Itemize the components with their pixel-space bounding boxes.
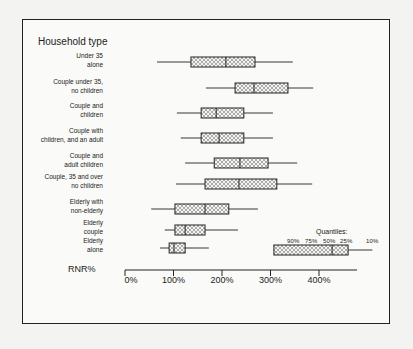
- x-tick-label: 400%: [307, 275, 330, 285]
- x-tick-label: 100%: [162, 275, 185, 285]
- legend-quantile-label: 25%: [340, 238, 353, 244]
- box-row: [165, 225, 238, 235]
- x-axis-label: RNR%: [68, 264, 96, 274]
- box-row: [157, 57, 293, 67]
- x-tick-label: 300%: [259, 275, 282, 285]
- legend-quantile-label: 75%: [305, 238, 318, 244]
- legend-quantile-label: 10%: [366, 238, 379, 244]
- legend-sample-box: [274, 245, 372, 255]
- legend-title: Quantiles:: [316, 228, 348, 235]
- box-row: [177, 108, 273, 118]
- box-row: [160, 243, 209, 253]
- legend-box: [274, 245, 372, 255]
- legend-quantile-label: 90%: [287, 238, 300, 244]
- box-row: [151, 204, 258, 214]
- x-tick-label: 200%: [210, 275, 233, 285]
- x-tick-label: 0%: [124, 275, 137, 285]
- box-row: [185, 158, 297, 168]
- boxplot-area: [0, 0, 413, 349]
- legend-quantile-label: 50%: [323, 238, 336, 244]
- box-row: [181, 133, 273, 143]
- box-row: [176, 179, 312, 189]
- box-row: [206, 83, 313, 93]
